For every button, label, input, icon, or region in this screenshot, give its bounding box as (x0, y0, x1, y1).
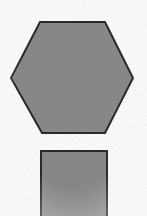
figure-canvas: Two gray geometric shapes A large filled… (0, 0, 147, 216)
rectangle-rect (41, 151, 107, 216)
rectangle-shape (41, 151, 107, 216)
shape-layer: Two gray geometric shapes A large filled… (0, 0, 147, 216)
